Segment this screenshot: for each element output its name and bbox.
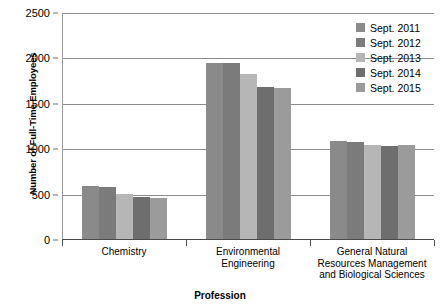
bar bbox=[257, 87, 274, 240]
bar-chart: Number of Full-Time Employees 0500100015… bbox=[0, 0, 440, 306]
y-tick-label: 500 bbox=[32, 189, 50, 201]
legend-label: Sept. 2013 bbox=[370, 52, 421, 64]
legend-item: Sept. 2015 bbox=[356, 80, 421, 95]
x-axis-title: Profession bbox=[0, 290, 440, 301]
bar bbox=[116, 194, 133, 240]
category-label: Environmental Engineering bbox=[186, 246, 310, 281]
category-label: General Natural Resources Management and… bbox=[310, 246, 434, 281]
legend-swatch-icon bbox=[356, 83, 365, 92]
bar-group bbox=[62, 13, 186, 240]
legend-swatch-icon bbox=[356, 53, 365, 62]
bar bbox=[206, 63, 223, 240]
y-tick-mark bbox=[53, 58, 58, 59]
legend-swatch-icon bbox=[356, 38, 365, 47]
category-label: Chemistry bbox=[62, 246, 186, 281]
legend-item: Sept. 2014 bbox=[356, 65, 421, 80]
category-tick bbox=[434, 240, 435, 246]
bar bbox=[150, 198, 167, 240]
bar bbox=[330, 141, 347, 240]
legend-item: Sept. 2012 bbox=[356, 35, 421, 50]
bar bbox=[99, 187, 116, 240]
legend-swatch-icon bbox=[356, 68, 365, 77]
legend-label: Sept. 2011 bbox=[370, 22, 420, 34]
bar bbox=[364, 145, 381, 240]
y-tick-label: 0 bbox=[44, 234, 50, 246]
legend-item: Sept. 2013 bbox=[356, 50, 421, 65]
y-tick-label: 2000 bbox=[26, 52, 50, 64]
y-tick-label: 1500 bbox=[26, 98, 50, 110]
y-tick-mark bbox=[53, 240, 58, 241]
legend-item: Sept. 2011 bbox=[356, 20, 421, 35]
y-tick-mark bbox=[53, 13, 58, 14]
legend-label: Sept. 2014 bbox=[370, 67, 421, 79]
bar bbox=[274, 88, 291, 240]
y-tick-mark bbox=[53, 103, 58, 104]
bar bbox=[82, 186, 99, 240]
legend-swatch-icon bbox=[356, 23, 365, 32]
bar bbox=[223, 63, 240, 240]
legend-label: Sept. 2015 bbox=[370, 82, 421, 94]
bar bbox=[133, 197, 150, 240]
bar bbox=[240, 74, 257, 240]
y-tick-mark bbox=[53, 194, 58, 195]
legend: Sept. 2011Sept. 2012Sept. 2013Sept. 2014… bbox=[356, 20, 421, 95]
bar-group bbox=[186, 13, 310, 240]
y-tick-mark bbox=[53, 149, 58, 150]
bar bbox=[381, 146, 398, 240]
bar bbox=[347, 142, 364, 240]
bar bbox=[398, 145, 415, 240]
y-tick-label: 2500 bbox=[26, 7, 50, 19]
y-tick-label: 1000 bbox=[26, 143, 50, 155]
category-labels: ChemistryEnvironmental EngineeringGenera… bbox=[62, 246, 434, 281]
y-axis-ticks: 05001000150020002500 bbox=[0, 0, 58, 306]
legend-label: Sept. 2012 bbox=[370, 37, 421, 49]
